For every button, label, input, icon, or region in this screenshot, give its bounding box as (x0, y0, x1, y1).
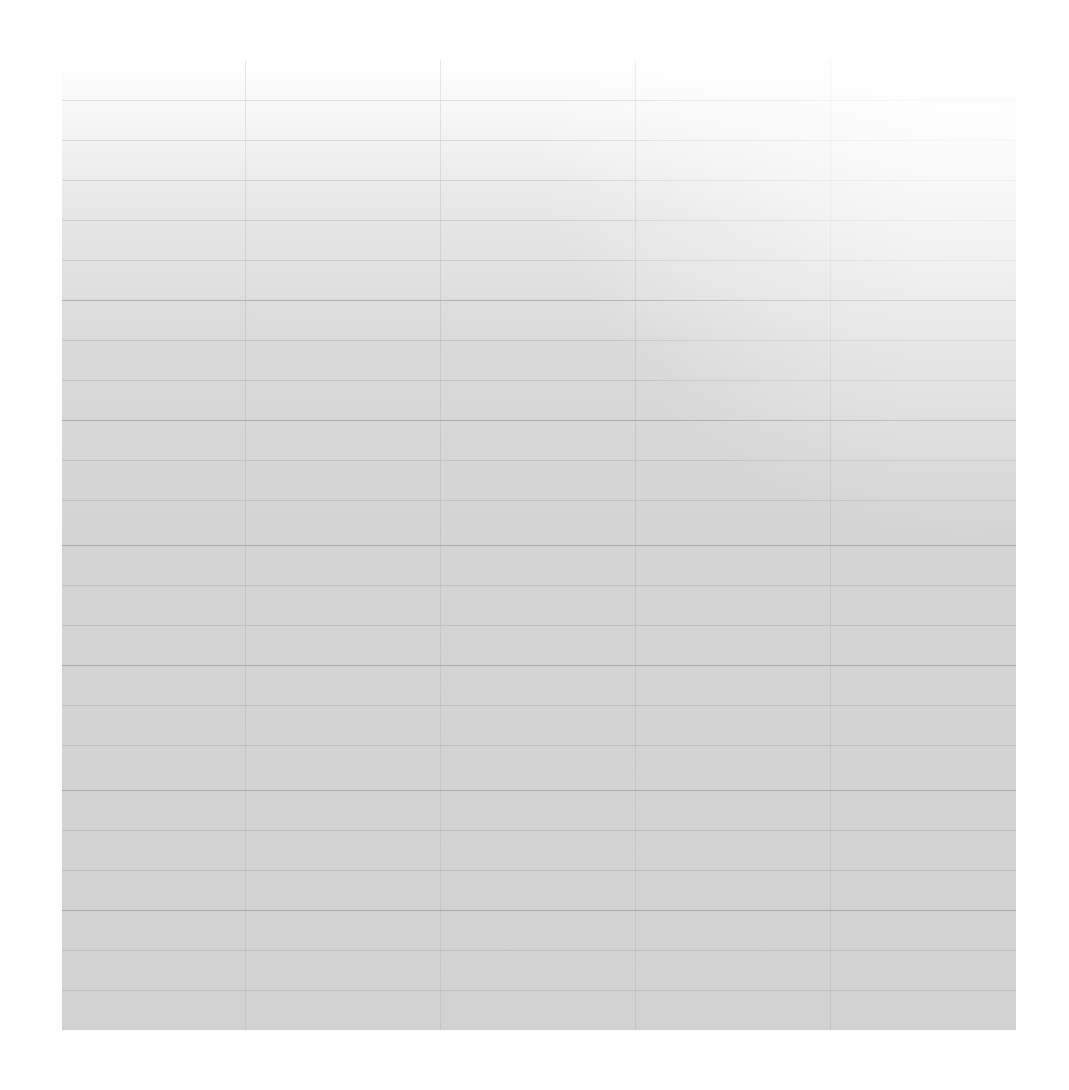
vertical-rule (440, 60, 441, 1030)
horizontal-rule (62, 420, 1016, 421)
horizontal-rule (62, 180, 1016, 181)
horizontal-rule (62, 340, 1016, 341)
horizontal-rule (62, 830, 1016, 831)
vertical-rule (635, 60, 636, 1030)
horizontal-rule (62, 665, 1016, 666)
vertical-rule (830, 60, 831, 1030)
horizontal-rule (62, 950, 1016, 951)
horizontal-rule (62, 790, 1016, 791)
horizontal-rule (62, 545, 1016, 546)
horizontal-rule (62, 910, 1016, 911)
horizontal-rule (62, 220, 1016, 221)
horizontal-rule (62, 140, 1016, 141)
horizontal-rule (62, 745, 1016, 746)
horizontal-rule (62, 625, 1016, 626)
horizontal-rule (62, 100, 1016, 101)
horizontal-rule (62, 380, 1016, 381)
vertical-rule (245, 60, 246, 1030)
ruled-paper-sheet (62, 60, 1016, 1030)
horizontal-rule (62, 500, 1016, 501)
horizontal-rule (62, 585, 1016, 586)
horizontal-rule (62, 300, 1016, 301)
horizontal-rule (62, 990, 1016, 991)
horizontal-rule (62, 460, 1016, 461)
horizontal-rule (62, 870, 1016, 871)
horizontal-rule (62, 260, 1016, 261)
horizontal-rule (62, 705, 1016, 706)
